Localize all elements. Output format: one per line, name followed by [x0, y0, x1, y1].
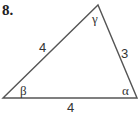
side-bottom-label: 4: [67, 100, 74, 115]
angle-gamma-label: γ: [91, 11, 98, 26]
angle-alpha-label: α: [122, 83, 129, 98]
angle-beta-label: β: [20, 83, 27, 98]
side-right-label: 3: [121, 46, 128, 61]
side-left-label: 4: [39, 40, 46, 55]
triangle-diagram: 4 3 4 γ β α: [0, 0, 138, 115]
